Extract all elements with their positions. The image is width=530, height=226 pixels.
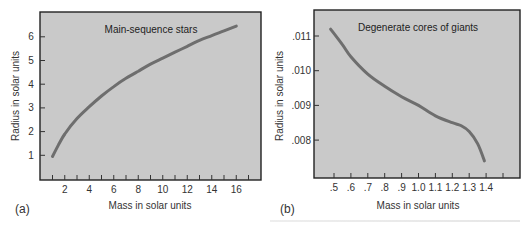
figure: 123456 246810121416 Main-sequence stars … [0,0,530,226]
x-tick-label: 16 [231,184,243,195]
x-tick-label: .9 [397,182,406,193]
y-tick-label: 2 [28,126,34,137]
y-tick-label: .010 [292,65,312,76]
panel-label-b: (b) [280,202,295,216]
x-tick-label: 14 [206,184,218,195]
y-axis-label-b: Radius in solar units [274,51,285,141]
chart-main-sequence: 123456 246810121416 Main-sequence stars … [10,12,261,216]
plot-area-b [314,10,520,178]
x-tick-label: 2 [62,184,68,195]
y-tick-label: 3 [28,102,34,113]
x-tick-label: 1.2 [445,182,459,193]
figure-caption-fragment [270,220,520,222]
y-tick-label: 4 [28,79,34,90]
y-tick-label: .009 [292,100,312,111]
x-tick-label: .8 [381,182,390,193]
x-tick-label: 1.0 [412,182,426,193]
y-tick-label: 1 [28,150,34,161]
y-tick-label: .008 [292,135,312,146]
panel-label-a: (a) [15,202,30,216]
x-tick-label: 12 [182,184,194,195]
plot-area-a [40,12,261,180]
chart-title-a: Main-sequence stars [105,24,198,35]
x-tick-label: .5 [330,182,339,193]
y-axis-label-a: Radius in solar units [10,51,21,141]
x-tick-label: 6 [111,184,117,195]
x-tick-label: 4 [86,184,92,195]
y-tick-label: 6 [28,31,34,42]
x-tick-label: 8 [135,184,141,195]
chart-title-b: Degenerate cores of giants [358,22,478,33]
x-tick-label: .6 [347,182,356,193]
x-axis-label-b: Mass in solar units [377,200,460,211]
x-tick-label: 1.4 [479,182,493,193]
x-tick-label: .7 [364,182,373,193]
chart-degenerate-cores: .011.010.009.008 .5.6.7.8.91.01.11.21.31… [274,10,520,216]
y-tick-label: 5 [28,55,34,66]
y-tick-label: .011 [292,31,311,42]
x-tick-label: 10 [157,184,169,195]
x-tick-label: 1.3 [462,182,476,193]
x-tick-label: 1.1 [428,182,442,193]
x-axis-label-a: Mass in solar units [109,200,192,211]
